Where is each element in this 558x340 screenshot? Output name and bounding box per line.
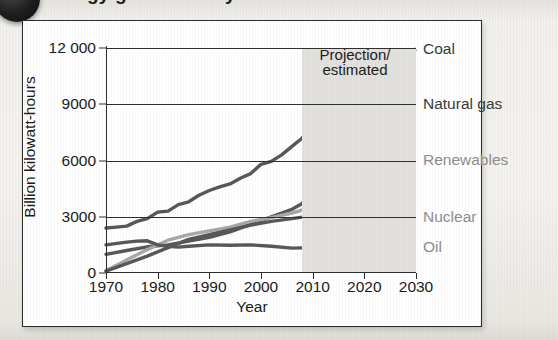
y-tick-mark xyxy=(99,48,106,49)
projection-annotation: Projection/ estimated xyxy=(294,47,416,78)
series-label-natural-gas: Natural gas xyxy=(423,95,502,113)
x-tick-label: 1970 xyxy=(89,278,123,296)
figure-box: Projection/ estimated 030006000900012 00… xyxy=(22,20,482,327)
series-label-oil: Oil xyxy=(423,238,442,256)
gridline xyxy=(106,161,416,162)
y-axis-line xyxy=(106,46,107,275)
x-tick-label: 2000 xyxy=(244,278,278,296)
x-axis-title: Year xyxy=(23,298,481,316)
y-tick-mark xyxy=(99,160,106,161)
annotation-line-2: estimated xyxy=(294,62,416,77)
y-tick-mark xyxy=(99,104,106,105)
figure-title-cropped: Energy generated by source xyxy=(44,0,558,5)
y-tick-label: 9000 xyxy=(62,95,96,113)
x-tick-label: 2020 xyxy=(347,278,381,296)
series-label-renewables: Renewables xyxy=(423,151,508,169)
chart-area: Projection/ estimated 030006000900012 00… xyxy=(23,21,481,326)
x-tick-label: 2030 xyxy=(399,278,433,296)
series-label-coal: Coal xyxy=(423,40,455,58)
y-axis-title: Billion kilowatt-hours xyxy=(21,76,39,217)
series-line-oil xyxy=(106,241,302,248)
gridline xyxy=(106,217,416,218)
x-tick-label: 1980 xyxy=(140,278,174,296)
gridline xyxy=(106,104,416,105)
y-tick-label: 12 000 xyxy=(49,39,96,57)
x-tick-label: 1990 xyxy=(192,278,226,296)
y-tick-mark xyxy=(99,273,106,274)
y-tick-label: 3000 xyxy=(62,208,96,226)
y-tick-mark xyxy=(99,216,106,217)
x-tick-label: 2010 xyxy=(295,278,329,296)
series-label-nuclear: Nuclear xyxy=(423,208,476,226)
annotation-line-1: Projection/ xyxy=(294,47,416,62)
y-tick-label: 6000 xyxy=(62,152,96,170)
plot-area: Projection/ estimated xyxy=(106,48,416,273)
